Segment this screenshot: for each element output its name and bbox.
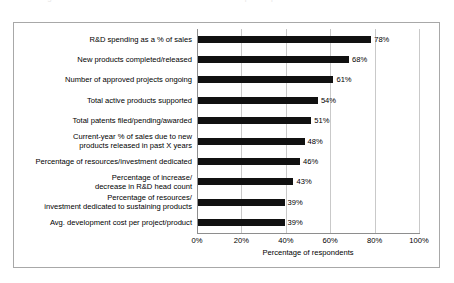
x-tick-label: 100% xyxy=(409,236,428,245)
bar-row: Current-year % of sales due to new produ… xyxy=(197,131,419,151)
bar xyxy=(198,158,300,165)
gridline-100% xyxy=(419,29,420,233)
bar xyxy=(198,117,311,124)
top-caption-text: Figure: metrics used to measure research… xyxy=(40,0,319,2)
bar xyxy=(198,219,285,226)
bar-value-label: 68% xyxy=(352,55,367,64)
bar xyxy=(198,36,371,43)
bar-category-label: Percentage of resources/ investment dedi… xyxy=(0,193,192,211)
bar xyxy=(198,199,285,206)
bar-value-label: 48% xyxy=(308,137,323,146)
bar xyxy=(198,56,349,63)
bar-row: Percentage of resources/ investment dedi… xyxy=(197,192,419,212)
top-caption-strip: Figure: metrics used to measure research… xyxy=(0,0,454,14)
bar-row: Avg. development cost per project/produc… xyxy=(197,213,419,233)
bar-category-label: Avg. development cost per project/produc… xyxy=(0,218,192,227)
bar-value-label: 61% xyxy=(336,75,351,84)
bar-category-label: Current-year % of sales due to new produ… xyxy=(0,132,192,150)
bar-category-label: Percentage of increase/ decrease in R&D … xyxy=(0,173,192,191)
bar-value-label: 78% xyxy=(374,35,389,44)
bar-row: Percentage of increase/ decrease in R&D … xyxy=(197,172,419,192)
bar-category-label: New products completed/released xyxy=(0,55,192,64)
plot-area: R&D spending as a % of sales78%New produ… xyxy=(197,29,419,233)
x-tick-label: 60% xyxy=(323,236,338,245)
bar-value-label: 46% xyxy=(303,157,318,166)
x-axis-line xyxy=(197,233,420,234)
bar-row: Total active products supported54% xyxy=(197,90,419,110)
bar-row: Total patents filed/pending/awarded51% xyxy=(197,111,419,131)
x-tick-label: 40% xyxy=(278,236,293,245)
bar xyxy=(198,97,318,104)
x-tick-label: 0% xyxy=(192,236,203,245)
bar-value-label: 39% xyxy=(288,218,303,227)
bar-value-label: 39% xyxy=(288,198,303,207)
bar-row: Percentage of resources/investment dedic… xyxy=(197,151,419,171)
bar-category-label: Percentage of resources/investment dedic… xyxy=(0,157,192,166)
chart-frame: R&D spending as a % of sales78%New produ… xyxy=(13,22,440,268)
bar-category-label: Total active products supported xyxy=(0,96,192,105)
bar xyxy=(198,178,293,185)
x-tick-label: 80% xyxy=(367,236,382,245)
bar-row: New products completed/released68% xyxy=(197,49,419,69)
bar-category-label: R&D spending as a % of sales xyxy=(0,35,192,44)
bar-category-label: Total patents filed/pending/awarded xyxy=(0,116,192,125)
x-tick-label: 20% xyxy=(234,236,249,245)
bar-value-label: 43% xyxy=(296,177,311,186)
bar-value-label: 54% xyxy=(321,96,336,105)
bar-row: R&D spending as a % of sales78% xyxy=(197,29,419,49)
bar-category-label: Number of approved projects ongoing xyxy=(0,75,192,84)
x-axis-title: Percentage of respondents xyxy=(197,248,419,257)
bar-value-label: 51% xyxy=(314,116,329,125)
bar-row: Number of approved projects ongoing61% xyxy=(197,70,419,90)
bar xyxy=(198,138,305,145)
bar xyxy=(198,76,333,83)
